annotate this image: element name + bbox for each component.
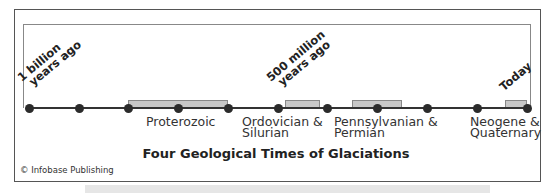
period-label-ordovician: Ordovician & Silurian (242, 116, 323, 138)
timeline-dot (274, 104, 283, 113)
copyright-credit: © Infobase Publishing (20, 165, 114, 175)
timeline-dot (323, 104, 332, 113)
timeline-dot (124, 104, 133, 113)
period-label-neogene: Neogene & Quaternary (470, 116, 541, 138)
timeline-dot (373, 104, 382, 113)
period-line: Quaternary (470, 127, 541, 138)
timeline-dot (75, 104, 84, 113)
frame-shadow (85, 185, 490, 193)
diagram-title: Four Geological Times of Glaciations (0, 146, 552, 161)
timeline-dot (224, 104, 233, 113)
period-label-pennsylvanian: Pennsylvanian & Permian (334, 116, 438, 138)
timeline-dot (25, 104, 34, 113)
timeline-dot (523, 104, 532, 113)
period-line: Proterozoic (146, 116, 216, 127)
timeline-dot (174, 104, 183, 113)
timeline-dot (423, 104, 432, 113)
timeline-dot (473, 104, 482, 113)
period-label-proterozoic: Proterozoic (146, 116, 216, 127)
